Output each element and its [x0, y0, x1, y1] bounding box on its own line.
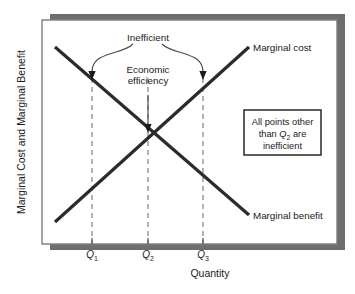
x-axis-label: Quantity: [190, 267, 230, 279]
callout-line-2-pre: than: [259, 129, 280, 139]
tick-label-q1-sub: 1: [94, 255, 98, 262]
tick-label-q2-sub: 2: [150, 255, 154, 262]
series-label-marginal-cost: Marginal cost: [253, 42, 312, 53]
callout-line-2-post: are: [290, 129, 306, 139]
callout-line-1: All points other: [252, 117, 314, 127]
tick-label-q2: Q2: [142, 249, 154, 262]
y-axis-label: Marginal Cost and Marginal Benefit: [15, 50, 27, 214]
tick-label-q3: Q3: [197, 249, 209, 262]
callout-line-2-q: Q: [279, 129, 286, 139]
tick-label-q3-sub: 3: [205, 255, 209, 262]
tick-label-q1: Q1: [86, 249, 98, 262]
callout-line-2: than Q2 are: [259, 129, 307, 141]
economics-figure: Inefficient Economic efficiency Marginal…: [0, 0, 355, 294]
callout-line-3: inefficient: [263, 141, 303, 151]
annotation-inefficient: Inefficient: [127, 32, 169, 43]
annotation-economic-efficiency-line1: Economic: [126, 64, 169, 75]
chart-canvas: Inefficient Economic efficiency Marginal…: [0, 0, 355, 294]
series-label-marginal-benefit: Marginal benefit: [253, 210, 323, 221]
annotation-economic-efficiency-line2: efficiency: [128, 75, 169, 86]
